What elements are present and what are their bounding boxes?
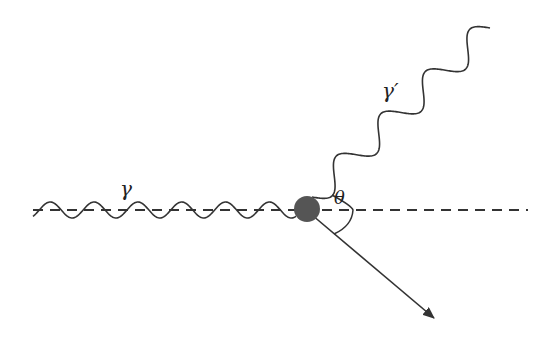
recoil-electron-arrow bbox=[312, 215, 434, 318]
scattered-photon-wave bbox=[312, 27, 490, 199]
compton-diagram: γ γ′ θ bbox=[0, 0, 553, 342]
scattered-photon-label: γ′ bbox=[382, 79, 399, 103]
target-electron bbox=[294, 196, 320, 222]
incoming-photon-label: γ bbox=[120, 177, 132, 201]
angle-label: θ bbox=[334, 187, 345, 208]
